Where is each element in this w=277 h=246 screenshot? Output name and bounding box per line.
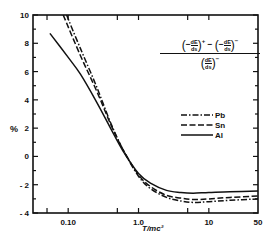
x-tick-label: 10 [204,218,213,227]
y-tick-label: 4 [25,96,30,105]
frac-bottom: ds [191,46,198,52]
x-axis-label: T/mc² [142,224,164,233]
y-tick-label: 6 [25,68,30,77]
formula-denominator: (dEds)− [160,54,260,70]
y-tick-label: 0 [25,152,30,161]
y-tick-label: 2 [25,124,30,133]
superscript-minus: − [235,38,239,44]
y-tick-label: - 2 [20,181,30,190]
legend: PbSnAl [181,111,225,140]
formula-numerator: (−dEds)+ − (−dEds)− [160,38,260,54]
minus-sign: − [208,39,213,49]
y-tick-label: - 4 [20,209,30,218]
y-axis-label: % [10,124,18,134]
legend-label-al: Al [215,131,223,140]
legend-label-pb: Pb [215,111,225,120]
y-tick-label: 10 [20,11,29,20]
superscript-plus: + [202,38,206,44]
frac-top: dE [205,57,212,64]
x-tick-label: 50 [254,218,263,227]
legend-label-sn: Sn [215,121,225,130]
y-tick-label: 8 [25,39,30,48]
frac-top: dE [224,39,231,46]
frac-top: dE [191,39,198,46]
frac-bottom: ds [224,46,231,52]
x-tick-label: 0.10 [60,218,76,227]
formula-annotation: (−dEds)+ − (−dEds)− (dEds)− [160,38,260,70]
superscript-minus: − [216,56,220,62]
frac-bottom: ds [205,64,212,70]
line-chart: 1086420- 2- 4 0.101.01050 PbSnAl % T/mc² [0,0,277,246]
